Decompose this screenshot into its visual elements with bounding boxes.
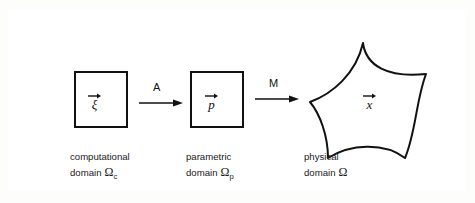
caption-computational-domain: computational domainΩc [70,150,130,184]
omega-subscript-computational: c [113,171,117,180]
arrow-right-icon [255,94,299,104]
caption-physical-line2: domain [304,167,335,178]
caption-physical-domain: physical domainΩ [304,150,347,184]
caption-physical-line1: physical [304,151,339,162]
figure-frame: ξ p x A [8,10,465,191]
p-symbol: p [208,99,215,110]
figure-container: ξ p x A [0,0,475,203]
omega-symbol-physical: Ω [335,165,347,179]
map-a-label: A [153,82,160,93]
arrow-right-icon [139,98,183,108]
xi-vector-label: ξ [88,93,101,110]
caption-parametric-line2: domain [186,167,217,178]
map-m-label: M [269,78,278,89]
computational-domain-square [74,71,128,128]
caption-parametric-line1: parametric [186,151,231,162]
caption-computational-line1: computational [70,151,130,162]
xi-symbol: ξ [92,99,98,110]
x-symbol: x [367,99,373,110]
omega-symbol-parametric: Ω [217,165,229,179]
caption-parametric-domain: parametric domainΩp [186,150,234,184]
caption-computational-line2: domain [70,167,101,178]
x-vector-label: x [363,93,376,110]
omega-symbol-computational: Ω [101,165,113,179]
p-vector-label: p [205,93,218,110]
omega-subscript-parametric: p [229,171,233,180]
